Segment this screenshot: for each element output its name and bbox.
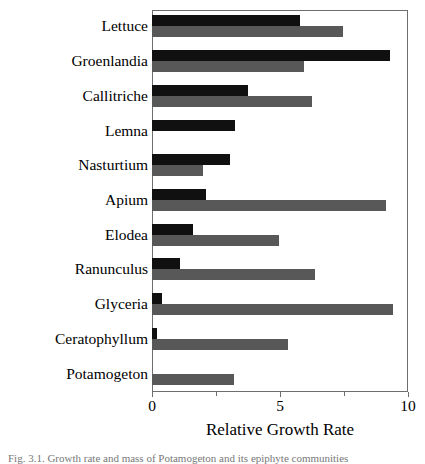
category-label-groenlandia: Groenlandia <box>0 53 148 69</box>
category-label-nasturtium: Nasturtium <box>0 157 148 173</box>
bar-elodea-light <box>152 235 279 246</box>
x-tick-label-0: 0 <box>132 398 172 414</box>
bar-ceratophyllum-light <box>152 339 288 350</box>
x-tick-label-10: 10 <box>388 398 425 414</box>
x-tick-2-5 <box>216 392 217 396</box>
bar-glyceria-light <box>152 304 393 315</box>
category-label-elodea: Elodea <box>0 227 148 243</box>
bar-callitriche-dark <box>152 85 248 96</box>
category-label-lettuce: Lettuce <box>0 18 148 34</box>
bar-glyceria-dark <box>152 293 162 304</box>
bar-ranunculus-light <box>152 269 315 280</box>
bar-callitriche-light <box>152 96 312 107</box>
bar-lettuce-dark <box>152 15 300 26</box>
bar-apium-dark <box>152 189 206 200</box>
growth-rate-bar-chart: LettuceGroenlandiaCallitricheLemnaNastur… <box>0 0 425 464</box>
x-tick-label-5: 5 <box>260 398 300 414</box>
category-label-potamogeton: Potamogeton <box>0 366 148 382</box>
category-label-apium: Apium <box>0 192 148 208</box>
category-label-ranunculus: Ranunculus <box>0 261 148 277</box>
bar-ranunculus-dark <box>152 258 180 269</box>
bar-ceratophyllum-dark <box>152 328 157 339</box>
bar-groenlandia-light <box>152 61 304 72</box>
category-label-ceratophyllum: Ceratophyllum <box>0 331 148 347</box>
bar-lemna-dark <box>152 120 235 131</box>
figure-caption: Fig. 3.1. Growth rate and mass of Potamo… <box>8 452 417 464</box>
x-tick-7-5 <box>344 392 345 396</box>
bar-groenlandia-dark <box>152 50 390 61</box>
bar-lettuce-light <box>152 26 343 37</box>
bar-elodea-dark <box>152 224 193 235</box>
category-label-glyceria: Glyceria <box>0 296 148 312</box>
category-label-lemna: Lemna <box>0 123 148 139</box>
bar-apium-light <box>152 200 386 211</box>
x-axis-title: Relative Growth Rate <box>152 420 408 439</box>
bar-potamogeton-light <box>152 374 234 385</box>
bar-nasturtium-light <box>152 165 203 176</box>
bar-nasturtium-dark <box>152 154 230 165</box>
category-label-callitriche: Callitriche <box>0 88 148 104</box>
